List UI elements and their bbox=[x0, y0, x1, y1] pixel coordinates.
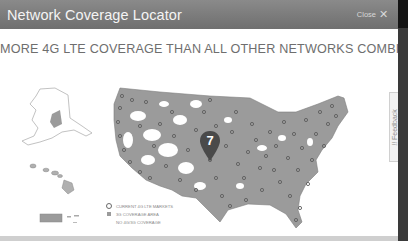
legend-item-3g: 3G COVERAGE AREA bbox=[106, 210, 173, 218]
blank-icon bbox=[106, 219, 112, 225]
pin-number: 7 bbox=[198, 133, 222, 148]
close-label: Close bbox=[357, 10, 376, 19]
gray-square-icon bbox=[107, 212, 111, 216]
feedback-label: !! Feedback bbox=[391, 109, 398, 146]
coverage-map[interactable]: 7 bbox=[0, 60, 398, 236]
modal-backdrop[interactable] bbox=[397, 0, 408, 241]
ring-marker-icon bbox=[106, 203, 112, 209]
map-pin-marker[interactable]: 7 bbox=[198, 130, 222, 162]
close-x-icon: ✕ bbox=[379, 9, 388, 20]
legend-item-lte: CURRENT 4G LTE MARKETS bbox=[106, 202, 173, 210]
legend-item-none: NO 4G/3G COVERAGE bbox=[106, 218, 173, 226]
map-legend: CURRENT 4G LTE MARKETS 3G COVERAGE AREA … bbox=[106, 202, 173, 226]
close-button[interactable]: Close ✕ bbox=[357, 9, 388, 20]
feedback-tab[interactable]: !! Feedback bbox=[389, 92, 398, 162]
legend-label: 3G COVERAGE AREA bbox=[116, 212, 159, 217]
modal-bottom-edge bbox=[0, 236, 398, 241]
coverage-headline: MORE 4G LTE COVERAGE THAN ALL OTHER NETW… bbox=[0, 42, 398, 56]
alaska-map bbox=[22, 88, 92, 145]
puerto-rico-map bbox=[40, 214, 79, 223]
modal-title: Network Coverage Locator bbox=[7, 7, 182, 23]
legend-label: CURRENT 4G LTE MARKETS bbox=[116, 204, 173, 209]
network-coverage-modal: Network Coverage Locator Close ✕ MORE 4G… bbox=[0, 0, 398, 236]
legend-label: NO 4G/3G COVERAGE bbox=[116, 220, 161, 225]
modal-header: Network Coverage Locator Close ✕ bbox=[0, 0, 398, 29]
hawaii-map bbox=[30, 164, 74, 194]
